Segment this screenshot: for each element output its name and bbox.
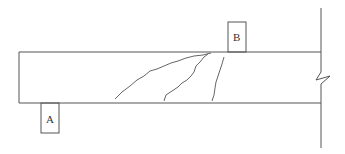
crack-2 bbox=[164, 54, 208, 101]
support-b-label: B bbox=[233, 31, 240, 43]
crack-1 bbox=[115, 53, 211, 99]
cracks bbox=[115, 53, 224, 101]
support-a-label: A bbox=[46, 113, 54, 125]
wall-with-break-symbol bbox=[316, 8, 330, 148]
crack-3 bbox=[212, 57, 224, 101]
beam bbox=[19, 52, 321, 103]
beam-diagram bbox=[0, 0, 345, 154]
